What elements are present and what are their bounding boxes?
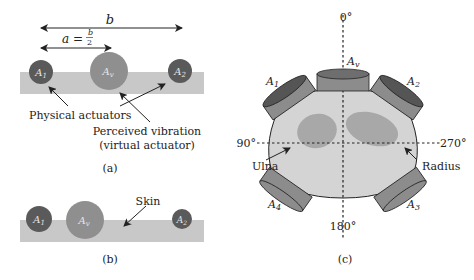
panel-a: b a = b 2 A1 Av A2 Physical actuators Pe… [20, 12, 204, 175]
angle-90-label: 90° [237, 137, 257, 150]
annotation-perceived-line1: Perceived vibration [93, 125, 201, 138]
actuator-a2-label: A2 [406, 75, 420, 89]
actuator-av-label: Av [346, 55, 360, 69]
actuator-a3-label: A3 [406, 198, 420, 212]
angle-180-label: 180° [330, 220, 357, 233]
annotation-physical-actuators: Physical actuators [29, 109, 132, 122]
actuator-a1-label: A1 [265, 75, 279, 89]
figure-canvas: b a = b 2 A1 Av A2 Physical actuators Pe… [0, 0, 474, 280]
dimension-b-label: b [106, 12, 114, 27]
annotation-perceived-line2: (virtual actuator) [99, 139, 195, 152]
panel-a-caption: (a) [102, 162, 117, 175]
fraction-denominator: 2 [87, 38, 92, 47]
bone-ulna-label: Ulna [252, 160, 279, 173]
panel-b-caption: (b) [102, 253, 118, 266]
angle-270-label: 270° [440, 137, 467, 150]
dimension-a-label: a = [62, 32, 83, 46]
panel-c-caption: (c) [338, 253, 353, 266]
panel-b: A1 Av A2 Skin (b) [20, 195, 204, 266]
fraction-numerator: b [88, 28, 93, 37]
panel-c: 0° 90° 270° 180° Av A1 A2 A3 A4 Ulna Rad… [237, 11, 467, 266]
actuator-av-top [317, 69, 369, 79]
angle-0-label: 0° [340, 11, 353, 24]
bone-radius-label: Radius [422, 160, 461, 173]
annotation-skin: Skin [136, 195, 161, 208]
